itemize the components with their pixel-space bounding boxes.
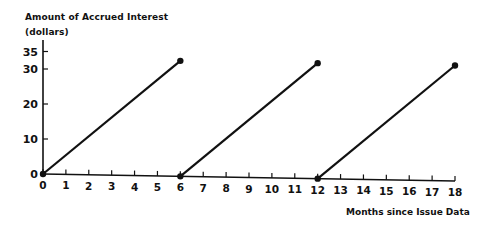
y-tick-label: 35 (23, 46, 38, 59)
data-point-marker (452, 62, 458, 68)
x-tick-label: 7 (200, 182, 207, 194)
y-tick-label: 10 (23, 133, 39, 146)
x-tick-label: 3 (108, 180, 115, 192)
x-tick-label: 6 (177, 181, 184, 193)
data-point-marker (314, 175, 320, 181)
data-point-marker (177, 173, 183, 179)
x-tick-label: 11 (287, 183, 302, 195)
x-tick-label: 16 (402, 185, 417, 197)
data-series (40, 58, 458, 182)
x-tick-label: 2 (85, 180, 92, 192)
accrued-interest-chart: 0102030350123456789101112131415161718 (0, 0, 479, 227)
x-tick-label: 17 (425, 186, 440, 198)
x-tick-label: 5 (154, 181, 161, 193)
x-tick-label: 15 (379, 185, 394, 197)
x-tick-label: 12 (310, 184, 325, 196)
series-line (180, 63, 317, 176)
y-tick-label: 30 (23, 63, 39, 76)
x-tick-label: 14 (356, 184, 371, 196)
x-tick-label: 9 (245, 183, 252, 195)
x-tick-label: 13 (333, 184, 348, 196)
x-tick-label: 10 (265, 183, 280, 195)
axes: 0102030350123456789101112131415161718 (23, 40, 463, 198)
x-tick-label: 4 (131, 181, 138, 193)
x-tick-label: 8 (222, 182, 229, 194)
series-line (43, 61, 180, 174)
y-tick-label: 0 (30, 168, 38, 181)
data-point-marker (314, 60, 320, 66)
x-tick-label: 18 (448, 186, 463, 198)
data-point-marker (177, 58, 183, 64)
data-point-marker (40, 171, 46, 177)
x-tick-label: 1 (62, 179, 69, 191)
x-tick-label: 0 (39, 179, 46, 191)
series-line (318, 66, 455, 179)
y-tick-label: 20 (23, 98, 39, 111)
